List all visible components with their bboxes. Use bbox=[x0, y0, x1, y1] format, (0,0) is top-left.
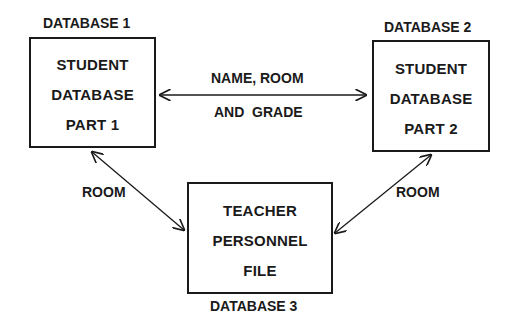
db3-box: TEACHER PERSONNEL FILE bbox=[187, 182, 333, 294]
db2-line-1: STUDENT bbox=[374, 60, 488, 77]
db2-line-3: PART 2 bbox=[374, 120, 488, 137]
db3-line-1: TEACHER bbox=[189, 202, 331, 219]
db2-box: STUDENT DATABASE PART 2 bbox=[372, 40, 490, 152]
db3-line-3: FILE bbox=[189, 262, 331, 279]
edge-db2-db3-label: ROOM bbox=[396, 184, 440, 200]
db3-caption: DATABASE 3 bbox=[210, 298, 297, 314]
edge-db1-db3-label: ROOM bbox=[82, 184, 126, 200]
db1-line-3: PART 1 bbox=[31, 116, 154, 133]
db3-line-2: PERSONNEL bbox=[189, 232, 331, 249]
db1-caption: DATABASE 1 bbox=[43, 15, 130, 31]
db1-line-2: DATABASE bbox=[31, 86, 154, 103]
db1-line-1: STUDENT bbox=[31, 56, 154, 73]
edge-db1-db2-label-2: AND GRADE bbox=[214, 104, 303, 120]
edge-db1-db2-label-1: NAME, ROOM bbox=[211, 70, 304, 86]
db1-box: STUDENT DATABASE PART 1 bbox=[29, 37, 156, 148]
db2-caption: DATABASE 2 bbox=[384, 19, 471, 35]
db2-line-2: DATABASE bbox=[374, 90, 488, 107]
